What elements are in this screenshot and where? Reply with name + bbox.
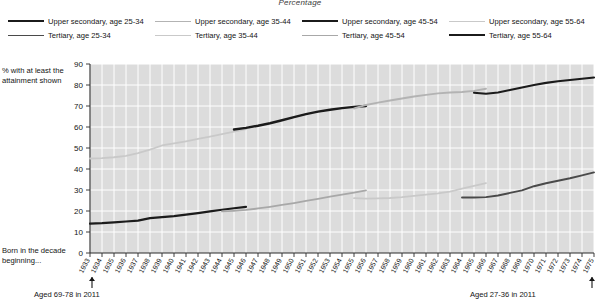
annotation-arrow	[589, 277, 595, 288]
y-tick-label: 40	[74, 165, 83, 174]
annotation-left: Aged 69-78 in 2011	[34, 290, 100, 299]
chart-legend: Upper secondary, age 25-34Upper secondar…	[8, 14, 594, 42]
legend-item-label: Tertiary, age 25-34	[48, 31, 111, 40]
y-tick-label: 10	[74, 228, 83, 237]
y-axis-note: % with at least the attainment shown	[2, 66, 74, 85]
legend-item: Upper secondary, age 35-44	[155, 17, 300, 26]
legend-item: Upper secondary, age 45-54	[302, 17, 447, 26]
legend-item: Tertiary, age 55-64	[449, 31, 594, 40]
legend-item-label: Tertiary, age 35-44	[195, 31, 258, 40]
legend-line-swatch	[449, 34, 485, 36]
y-tick-label: 60	[74, 123, 83, 132]
y-tick-label: 90	[74, 60, 83, 69]
legend-item-label: Upper secondary, age 45-54	[342, 17, 438, 26]
legend-item: Tertiary, age 45-54	[302, 31, 447, 40]
legend-item: Upper secondary, age 55-64	[449, 17, 594, 26]
legend-item: Upper secondary, age 25-34	[8, 17, 153, 26]
y-tick-label: 50	[74, 144, 83, 153]
legend-item-label: Upper secondary, age 55-64	[489, 17, 585, 26]
x-axis-note: Born in the decade beginning...	[2, 246, 80, 265]
x-tick-label: 1975	[581, 257, 595, 274]
legend-line-swatch	[8, 20, 44, 22]
legend-item-label: Tertiary, age 55-64	[489, 31, 552, 40]
figure-title: Percentage	[0, 0, 600, 7]
legend-item: Tertiary, age 25-34	[8, 31, 153, 40]
legend-line-swatch	[155, 21, 191, 22]
legend-line-swatch	[155, 35, 191, 36]
y-tick-label: 20	[74, 207, 83, 216]
annotation-right: Aged 27-36 in 2011	[470, 290, 536, 299]
y-tick-label: 70	[74, 102, 83, 111]
legend-item: Tertiary, age 35-44	[155, 31, 300, 40]
legend-item-label: Upper secondary, age 25-34	[48, 17, 144, 26]
plot-area: 0102030405060708090193319341935193619371…	[0, 0, 600, 301]
arrow-head	[589, 277, 595, 281]
annotation-arrow	[89, 277, 95, 288]
chart-figure: Percentage Upper secondary, age 25-34Upp…	[0, 0, 600, 301]
legend-line-swatch	[8, 35, 44, 36]
legend-line-swatch	[302, 20, 338, 22]
legend-item-label: Tertiary, age 45-54	[342, 31, 405, 40]
legend-line-swatch	[449, 21, 485, 22]
arrow-head	[89, 277, 95, 281]
legend-item-label: Upper secondary, age 35-44	[195, 17, 291, 26]
y-tick-label: 80	[74, 81, 83, 90]
y-tick-label: 30	[74, 186, 83, 195]
legend-line-swatch	[302, 35, 338, 36]
